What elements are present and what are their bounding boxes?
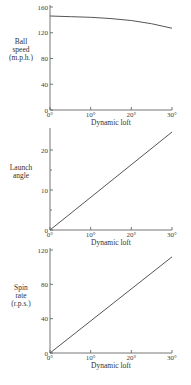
x-tick-label: 30°: [167, 231, 177, 239]
y-tick-label: 160: [38, 4, 49, 12]
y-tick-label: 20: [41, 147, 49, 155]
x-axis-label: Dynamic loft: [91, 238, 132, 247]
y-tick-label: 10: [41, 187, 49, 195]
x-tick-label: 30°: [167, 111, 177, 119]
x-tick-label: 0°: [47, 231, 54, 239]
ball-speed-chart: 040801201600°10°20°30°Dynamic loftBallsp…: [9, 4, 177, 128]
charts-canvas: 040801201600°10°20°30°Dynamic loftBallsp…: [0, 0, 191, 385]
y-tick-label: 40: [41, 81, 49, 89]
y-axis-label: (r.p.s.): [11, 299, 31, 308]
spin-rate-chart: 040801200°10°20°30°Dynamic loftSpinrate(…: [11, 247, 177, 371]
x-axis-label: Dynamic loft: [91, 361, 132, 370]
launch-angle-chart: 010200°10°20°30°Dynamic loftLaunchangle: [10, 128, 177, 247]
y-axis-label: (m.p.h.): [9, 53, 33, 62]
y-tick-label: 120: [38, 247, 49, 255]
x-tick-label: 30°: [167, 354, 177, 362]
y-tick-label: 80: [41, 281, 49, 289]
data-line: [50, 16, 172, 28]
data-line: [50, 132, 172, 230]
y-tick-label: 120: [38, 29, 49, 37]
y-tick-label: 80: [41, 55, 49, 63]
x-tick-label: 0°: [47, 111, 54, 119]
x-tick-label: 0°: [47, 354, 54, 362]
x-axis-label: Dynamic loft: [91, 118, 132, 127]
y-tick-label: 40: [41, 315, 49, 323]
y-axis-label: angle: [13, 171, 30, 180]
data-line: [50, 257, 172, 353]
